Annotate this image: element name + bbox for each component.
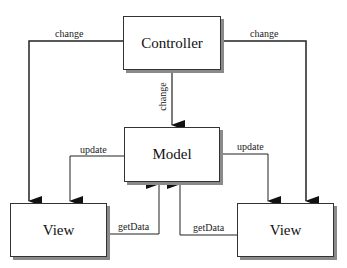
edge-controller-view-left (29, 41, 123, 201)
edge-label-view-left-model: getData (118, 221, 149, 232)
edge-label-view-right-model: getData (193, 222, 224, 233)
view-right-label: View (270, 222, 302, 239)
view-left-node: View (10, 203, 107, 257)
edge-label-controller-view-right: change (250, 28, 278, 39)
edge-model-view-left (70, 156, 124, 201)
edge-model-view-right (220, 154, 268, 201)
view-right-node: View (237, 203, 334, 257)
model-label: Model (152, 146, 191, 163)
model-node: Model (124, 127, 220, 182)
controller-label: Controller (141, 35, 203, 52)
controller-node: Controller (123, 16, 221, 70)
edge-label-model-view-right: update (237, 141, 264, 152)
edge-label-controller-model: change (157, 82, 168, 110)
view-left-label: View (43, 222, 75, 239)
edge-controller-view-right (221, 41, 306, 201)
edge-label-model-view-left: update (80, 144, 107, 155)
edge-label-controller-view-left: change (55, 28, 83, 39)
